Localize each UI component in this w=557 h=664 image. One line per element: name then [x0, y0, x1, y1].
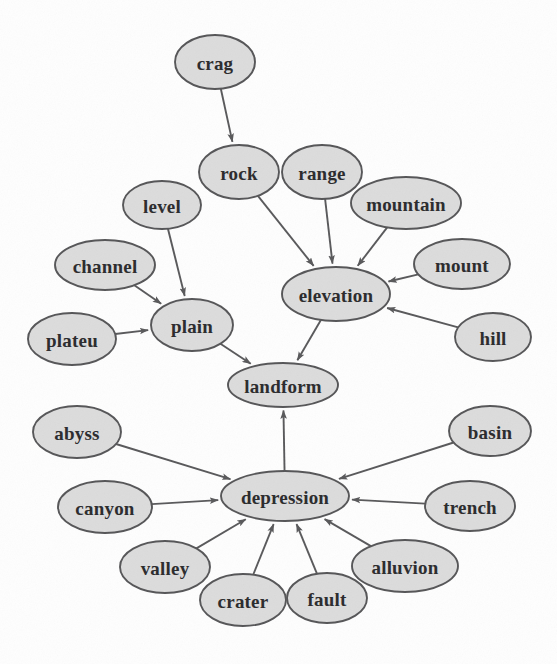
edge-plateu-to-plain	[115, 330, 148, 334]
node-abyss[interactable]: abyss	[33, 406, 121, 458]
edge-hill-to-elevation	[387, 308, 458, 327]
node-label-rock: rock	[220, 163, 258, 184]
node-label-crag: crag	[197, 53, 234, 74]
node-canyon[interactable]: canyon	[58, 481, 152, 533]
edge-level-to-plain	[168, 229, 185, 296]
node-label-abyss: abyss	[54, 423, 99, 444]
node-label-crater: crater	[218, 591, 269, 612]
node-range[interactable]: range	[282, 145, 362, 199]
landform-graph-figure: cragrockrangemountainlevelchannelmountpl…	[0, 0, 557, 664]
node-label-range: range	[298, 163, 345, 184]
nodes-layer: cragrockrangemountainlevelchannelmountpl…	[28, 35, 531, 626]
node-label-plateu: plateu	[46, 330, 98, 351]
node-landform[interactable]: landform	[228, 363, 338, 407]
node-label-fault: fault	[308, 589, 347, 610]
edge-fault-to-depression	[297, 524, 317, 574]
node-label-alluvion: alluvion	[371, 557, 438, 578]
node-fault[interactable]: fault	[287, 573, 367, 623]
node-label-elevation: elevation	[299, 285, 374, 306]
node-rock[interactable]: rock	[199, 145, 279, 199]
node-basin[interactable]: basin	[449, 406, 531, 456]
edge-elevation-to-landform	[297, 320, 321, 360]
node-crater[interactable]: crater	[200, 574, 286, 626]
node-label-basin: basin	[468, 422, 513, 443]
node-trench[interactable]: trench	[425, 481, 515, 531]
node-level[interactable]: level	[123, 181, 201, 229]
edge-plain-to-landform	[220, 344, 250, 364]
node-label-landform: landform	[244, 376, 322, 397]
edge-canyon-to-depression	[152, 500, 218, 504]
graph-canvas: cragrockrangemountainlevelchannelmountpl…	[0, 0, 557, 664]
edge-crater-to-depression	[253, 524, 273, 575]
node-label-mountain: mountain	[366, 194, 446, 215]
node-label-canyon: canyon	[75, 498, 134, 519]
node-mount[interactable]: mount	[414, 239, 510, 289]
node-depression[interactable]: depression	[221, 471, 349, 521]
node-label-mount: mount	[435, 255, 489, 276]
node-mountain[interactable]: mountain	[351, 177, 461, 229]
edge-range-to-elevation	[325, 199, 332, 264]
node-plateu[interactable]: plateu	[28, 313, 116, 365]
edge-mount-to-elevation	[388, 274, 418, 281]
node-label-trench: trench	[443, 497, 497, 518]
edge-abyss-to-depression	[116, 444, 230, 479]
node-valley[interactable]: valley	[120, 541, 210, 593]
edge-crag-to-rock	[221, 89, 233, 142]
node-label-channel: channel	[73, 256, 138, 277]
node-hill[interactable]: hill	[455, 313, 531, 361]
edge-channel-to-plain	[134, 285, 161, 303]
edge-valley-to-depression	[196, 519, 245, 548]
node-alluvion[interactable]: alluvion	[352, 540, 458, 592]
node-channel[interactable]: channel	[55, 240, 155, 290]
edge-depression-to-landform	[283, 411, 284, 472]
node-label-valley: valley	[141, 558, 190, 579]
edge-alluvion-to-depression	[325, 519, 371, 546]
edge-trench-to-depression	[352, 500, 425, 504]
node-label-depression: depression	[241, 487, 329, 508]
node-plain[interactable]: plain	[151, 299, 233, 351]
edge-mountain-to-elevation	[358, 227, 387, 265]
edge-rock-to-elevation	[258, 196, 314, 266]
node-crag[interactable]: crag	[175, 35, 255, 89]
edge-basin-to-depression	[339, 443, 454, 479]
node-label-hill: hill	[479, 328, 506, 349]
node-elevation[interactable]: elevation	[282, 267, 390, 321]
node-label-level: level	[143, 196, 181, 217]
node-label-plain: plain	[171, 316, 213, 337]
